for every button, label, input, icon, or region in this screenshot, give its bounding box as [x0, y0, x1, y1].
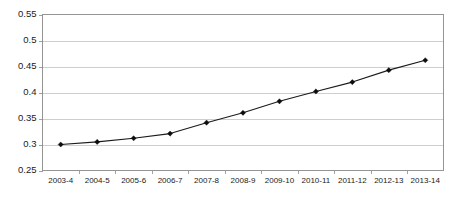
x-tick-label-2013-14: 2013-14 — [411, 176, 441, 185]
x-tick-label-2009-10: 2009-10 — [265, 176, 295, 185]
y-tick-label-0-4: 0.4 — [23, 86, 36, 97]
y-tick-label-0-5: 0.5 — [23, 34, 36, 45]
x-tick-label-2012-13: 2012-13 — [374, 176, 404, 185]
x-tick-label-2011-12: 2011-12 — [338, 176, 367, 185]
x-tick-label-2003-4: 2003-4 — [48, 176, 73, 185]
x-tick-label-2004-5: 2004-5 — [85, 176, 110, 185]
chart-background — [0, 0, 461, 204]
x-tick-label-2005-6: 2005-6 — [121, 176, 146, 185]
y-tick-label-0-25: 0.25 — [18, 164, 37, 175]
line-chart: 0.250.30.350.40.450.50.55 2003-42004-520… — [0, 0, 461, 204]
chart-canvas: 0.250.30.350.40.450.50.55 2003-42004-520… — [0, 0, 461, 204]
x-axis-tick-labels: 2003-42004-52005-62006-72007-82008-92009… — [48, 176, 440, 185]
x-tick-label-2008-9: 2008-9 — [231, 176, 256, 185]
x-tick-label-2007-8: 2007-8 — [194, 176, 219, 185]
y-tick-label-0-3: 0.3 — [23, 138, 36, 149]
y-tick-label-0-55: 0.55 — [18, 8, 37, 19]
y-tick-label-0-45: 0.45 — [18, 60, 37, 71]
y-tick-label-0-35: 0.35 — [18, 112, 37, 123]
x-tick-label-2010-11: 2010-11 — [302, 176, 331, 185]
x-tick-label-2006-7: 2006-7 — [158, 176, 183, 185]
